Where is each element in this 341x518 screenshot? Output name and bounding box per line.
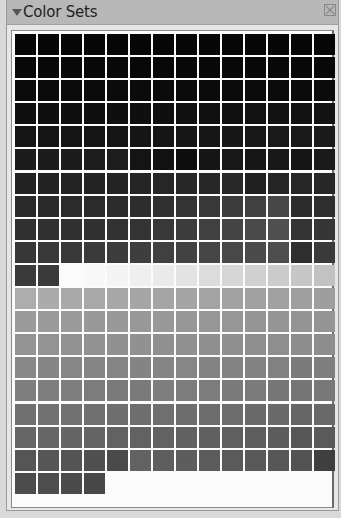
color-swatch[interactable] (61, 149, 82, 170)
color-swatch[interactable] (199, 265, 220, 286)
color-swatch[interactable] (130, 219, 151, 240)
color-swatch[interactable] (199, 242, 220, 263)
color-swatch[interactable] (61, 103, 82, 124)
color-swatch[interactable] (268, 103, 289, 124)
color-swatch[interactable] (130, 126, 151, 147)
color-swatch[interactable] (15, 173, 36, 194)
color-swatch[interactable] (245, 357, 266, 378)
color-swatch[interactable] (107, 265, 128, 286)
color-swatch[interactable] (291, 288, 312, 309)
color-swatch[interactable] (199, 57, 220, 78)
color-swatch[interactable] (153, 357, 174, 378)
color-swatch[interactable] (314, 149, 335, 170)
color-swatch[interactable] (176, 219, 197, 240)
color-swatch[interactable] (107, 427, 128, 448)
color-swatch[interactable] (153, 219, 174, 240)
color-swatch[interactable] (153, 149, 174, 170)
color-swatch[interactable] (291, 173, 312, 194)
color-swatch[interactable] (107, 219, 128, 240)
color-swatch[interactable] (245, 34, 266, 55)
color-swatch[interactable] (176, 196, 197, 217)
color-swatch[interactable] (245, 404, 266, 425)
color-swatch[interactable] (268, 265, 289, 286)
color-swatch[interactable] (222, 219, 243, 240)
color-swatch[interactable] (130, 149, 151, 170)
color-swatch[interactable] (84, 57, 105, 78)
color-swatch[interactable] (107, 334, 128, 355)
color-swatch[interactable] (222, 357, 243, 378)
color-swatch[interactable] (245, 126, 266, 147)
color-swatch[interactable] (15, 357, 36, 378)
color-swatch[interactable] (38, 196, 59, 217)
color-swatch[interactable] (222, 288, 243, 309)
color-swatch[interactable] (176, 80, 197, 101)
color-swatch[interactable] (15, 404, 36, 425)
color-swatch[interactable] (314, 196, 335, 217)
color-swatch[interactable] (291, 380, 312, 401)
color-swatch[interactable] (84, 196, 105, 217)
color-swatch[interactable] (291, 311, 312, 332)
color-swatch[interactable] (130, 334, 151, 355)
color-swatch[interactable] (107, 34, 128, 55)
color-swatch[interactable] (176, 103, 197, 124)
color-swatch[interactable] (268, 450, 289, 471)
color-swatch[interactable] (314, 34, 335, 55)
color-swatch[interactable] (38, 103, 59, 124)
color-swatch[interactable] (84, 126, 105, 147)
color-swatch[interactable] (245, 265, 266, 286)
color-swatch[interactable] (107, 380, 128, 401)
color-swatch[interactable] (199, 427, 220, 448)
color-swatch[interactable] (130, 380, 151, 401)
color-swatch[interactable] (107, 242, 128, 263)
color-swatch[interactable] (38, 173, 59, 194)
color-swatch[interactable] (61, 288, 82, 309)
color-swatch[interactable] (153, 265, 174, 286)
color-swatch[interactable] (153, 80, 174, 101)
color-swatch[interactable] (153, 427, 174, 448)
color-swatch[interactable] (222, 380, 243, 401)
color-swatch[interactable] (61, 34, 82, 55)
close-icon[interactable] (324, 4, 336, 16)
color-swatch[interactable] (107, 196, 128, 217)
color-swatch[interactable] (222, 311, 243, 332)
color-swatch[interactable] (153, 404, 174, 425)
color-swatch[interactable] (176, 450, 197, 471)
color-swatch[interactable] (176, 126, 197, 147)
color-swatch[interactable] (176, 427, 197, 448)
color-swatch[interactable] (38, 311, 59, 332)
color-swatch[interactable] (245, 149, 266, 170)
color-swatch[interactable] (107, 126, 128, 147)
color-swatch[interactable] (291, 80, 312, 101)
color-swatch[interactable] (84, 219, 105, 240)
color-swatch[interactable] (314, 427, 335, 448)
color-swatch[interactable] (38, 242, 59, 263)
color-swatch[interactable] (130, 427, 151, 448)
color-swatch[interactable] (199, 450, 220, 471)
color-swatch[interactable] (314, 57, 335, 78)
color-swatch[interactable] (176, 288, 197, 309)
color-swatch[interactable] (314, 404, 335, 425)
color-swatch[interactable] (61, 450, 82, 471)
color-swatch[interactable] (199, 196, 220, 217)
color-swatch[interactable] (153, 34, 174, 55)
color-swatch[interactable] (291, 357, 312, 378)
color-swatch[interactable] (176, 242, 197, 263)
color-swatch[interactable] (268, 427, 289, 448)
color-swatch[interactable] (222, 404, 243, 425)
color-swatch[interactable] (268, 219, 289, 240)
color-swatch[interactable] (61, 404, 82, 425)
color-swatch[interactable] (153, 450, 174, 471)
color-swatch[interactable] (291, 196, 312, 217)
color-swatch[interactable] (199, 288, 220, 309)
color-swatch[interactable] (291, 126, 312, 147)
color-swatch[interactable] (61, 80, 82, 101)
color-swatch[interactable] (107, 103, 128, 124)
color-swatch[interactable] (222, 34, 243, 55)
color-swatch[interactable] (15, 103, 36, 124)
color-swatch[interactable] (15, 450, 36, 471)
color-swatch[interactable] (38, 334, 59, 355)
color-swatch[interactable] (84, 357, 105, 378)
color-swatch[interactable] (38, 473, 59, 494)
color-swatch[interactable] (38, 149, 59, 170)
color-swatch[interactable] (176, 380, 197, 401)
